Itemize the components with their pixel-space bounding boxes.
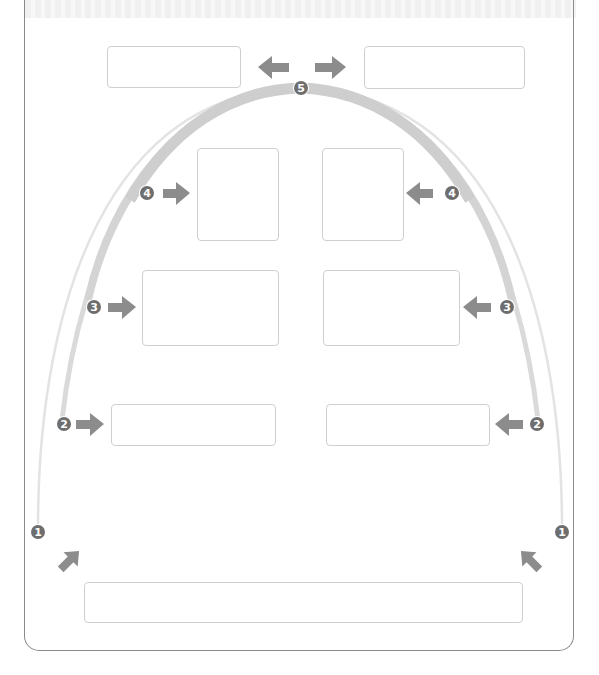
box-step2-left[interactable] xyxy=(111,404,276,446)
box-step3-right[interactable] xyxy=(323,270,460,346)
box-top-right[interactable] xyxy=(364,46,525,89)
arrow-left-icon xyxy=(258,56,289,79)
box-top-left[interactable] xyxy=(107,46,241,88)
arrow-right-icon xyxy=(163,182,190,205)
arrow-up-left-icon xyxy=(54,544,87,577)
box-step3-left[interactable] xyxy=(142,270,279,346)
step-4-badge-right: 4 xyxy=(444,185,460,201)
arch-diagram: 5 4 4 3 3 2 2 xyxy=(0,0,599,675)
step-2-badge-right: 2 xyxy=(529,416,545,432)
step-1-badge-left: 1 xyxy=(30,524,46,540)
box-step4-right[interactable] xyxy=(322,148,404,241)
step-3-badge-left: 3 xyxy=(86,299,102,315)
step-4-badge-left: 4 xyxy=(139,185,155,201)
box-step2-right[interactable] xyxy=(326,404,490,446)
svg-text:3: 3 xyxy=(503,301,511,314)
svg-text:1: 1 xyxy=(558,526,566,539)
arrow-right-icon xyxy=(108,296,136,319)
svg-text:2: 2 xyxy=(533,418,541,431)
svg-text:3: 3 xyxy=(90,301,98,314)
box-bottom[interactable] xyxy=(84,582,523,623)
arrow-left-icon xyxy=(495,413,523,436)
step-2-badge-left: 2 xyxy=(56,416,72,432)
arrow-right-icon xyxy=(76,413,104,436)
arrow-right-icon xyxy=(315,56,346,79)
arrow-left-icon xyxy=(406,182,433,205)
step-5-badge: 5 xyxy=(293,80,309,96)
step-3-badge-right: 3 xyxy=(499,299,515,315)
arrow-left-icon xyxy=(463,296,491,319)
svg-text:2: 2 xyxy=(60,418,68,431)
svg-text:4: 4 xyxy=(143,187,151,200)
arrow-up-right-icon xyxy=(514,544,547,577)
box-step4-left[interactable] xyxy=(197,148,279,241)
step-1-badge-right: 1 xyxy=(554,524,570,540)
svg-text:5: 5 xyxy=(297,82,305,95)
svg-text:4: 4 xyxy=(448,187,456,200)
svg-text:1: 1 xyxy=(34,526,42,539)
